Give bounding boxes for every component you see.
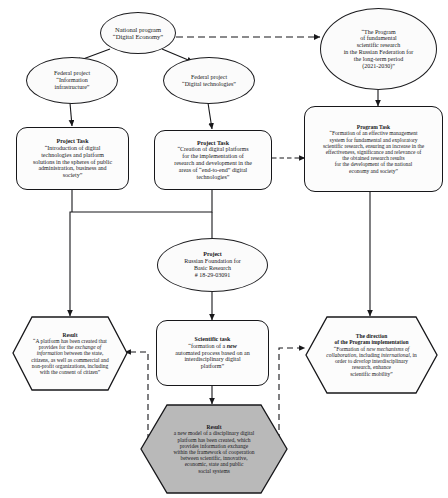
node-direction-of-program-implementation[interactable]: The direction of the Program implementat… bbox=[305, 316, 438, 394]
national-program-line1: National program bbox=[105, 26, 171, 33]
program-task-right-line7: economy and society” bbox=[309, 168, 438, 174]
project-rfbr-line1: Project bbox=[162, 251, 263, 258]
result-left-line3b: between the state, bbox=[63, 350, 104, 356]
node-federal-project-digital-technologies[interactable]: Federal project “Digital technologies” bbox=[163, 57, 255, 104]
project-rfbr-line3: Basic Research bbox=[162, 265, 263, 272]
project-task-center-line3: research and development in the bbox=[159, 160, 267, 167]
scientific-task-heading: Scientific task bbox=[161, 336, 264, 343]
node-project-task-introduction-of-digital-technologies[interactable]: Project Task “Introduction of digital te… bbox=[16, 127, 129, 190]
result-bottom-line7: social systems bbox=[150, 468, 278, 474]
node-result-new-model-disciplinary-digital-platform[interactable]: Result a new model of a disciplinary dig… bbox=[140, 404, 288, 494]
direction-right-line2a: collaboration bbox=[326, 352, 356, 358]
program-fundamental-line3: scientific research bbox=[325, 42, 432, 49]
result-left-line3a: information bbox=[37, 350, 63, 356]
national-program-line2: “Digital Economy” bbox=[105, 33, 171, 40]
scientific-task-line3: interdisciplinary digital bbox=[161, 356, 264, 363]
project-task-left-line2: technologies and platform bbox=[21, 152, 124, 159]
node-scientific-task-new-automated-process[interactable]: Scientific task “formation of a new auto… bbox=[156, 320, 269, 386]
direction-right-line3c: interdisciplinary bbox=[371, 358, 408, 364]
direction-right-line2d: , in bbox=[410, 352, 417, 358]
edge-federal-digital-to-project-task-center bbox=[208, 103, 212, 129]
node-program-fundamental[interactable]: “The Program of fundamental scientific r… bbox=[320, 8, 437, 90]
direction-right-line1a: “Formation of bbox=[334, 346, 367, 352]
project-task-left-line4: administration, business and bbox=[21, 165, 124, 172]
project-task-left-line1: “Introduction of digital bbox=[21, 145, 124, 152]
scientific-task-line2: automated process based on an bbox=[161, 350, 264, 357]
federal-info-line1: Federal project bbox=[31, 70, 113, 77]
direction-right-line1b: new mechanisms of bbox=[366, 346, 409, 352]
node-project-task-creation-of-digital-platforms[interactable]: Project Task “Creation of digital platfo… bbox=[154, 130, 272, 190]
result-left-line2b: exchange of bbox=[75, 344, 101, 350]
federal-digital-line2: “Digital technologies” bbox=[168, 81, 250, 88]
project-task-left-line5: society” bbox=[21, 172, 124, 179]
program-fundamental-line5: the long-term period bbox=[325, 56, 432, 63]
federal-info-line2: “Information bbox=[31, 77, 113, 84]
project-rfbr-line4: # 18-29-03091 bbox=[162, 272, 263, 279]
scientific-task-line4: platform” bbox=[161, 363, 264, 370]
scientific-task-line1: “formation of a new bbox=[161, 343, 264, 350]
federal-digital-line1: Federal project bbox=[168, 74, 250, 81]
project-task-left-line3: solutions in the spheres of public bbox=[21, 159, 124, 166]
node-program-task-effective-management-system[interactable]: Program Task “Formation of an effective … bbox=[304, 106, 443, 192]
direction-right-line2c: international bbox=[381, 352, 410, 358]
program-fundamental-line1: “The Program bbox=[325, 29, 432, 36]
project-task-center-heading: Project Task bbox=[159, 140, 267, 147]
project-task-center-line2: for the implementation of bbox=[159, 153, 267, 160]
node-federal-project-information-infrastructure[interactable]: Federal project “Information infrastruct… bbox=[26, 57, 118, 104]
flowchart-canvas: National program “Digital Economy” “The … bbox=[0, 0, 448, 498]
node-result-platform-exchange-of-information[interactable]: Result “A platform has been created that… bbox=[12, 316, 128, 391]
program-fundamental-line4: in the Russian Federation for bbox=[325, 49, 432, 56]
program-fundamental-line2: of fundamental bbox=[325, 35, 432, 42]
federal-info-line3: infrastructure” bbox=[31, 84, 113, 91]
direction-right-line5: scientific mobility” bbox=[315, 371, 428, 377]
project-rfbr-line2: Russian Foundation for bbox=[162, 258, 263, 265]
program-fundamental-line6: (2021-2030)” bbox=[325, 63, 432, 70]
scientific-task-line1a: “formation of a bbox=[188, 343, 226, 349]
scientific-task-line1b: new bbox=[227, 343, 237, 349]
direction-right-line3b: develop bbox=[354, 358, 371, 364]
project-task-center-line4: areas of “end-to-end” digital bbox=[159, 167, 267, 174]
direction-right-line3a: order to bbox=[335, 358, 354, 364]
project-task-center-line1: “Creation of digital platforms bbox=[159, 146, 267, 153]
project-task-left-heading: Project Task bbox=[21, 138, 124, 145]
direction-right-line2b: , including bbox=[356, 352, 381, 358]
result-left-line4: citizens, as well as commercial and bbox=[22, 357, 118, 363]
node-national-program[interactable]: National program “Digital Economy” bbox=[100, 12, 176, 54]
result-left-line6: with the consent of citizen” bbox=[22, 369, 118, 375]
project-task-center-line5: technologies” bbox=[159, 174, 267, 181]
node-project-russian-foundation-basic-research[interactable]: Project Russian Foundation for Basic Res… bbox=[157, 238, 268, 292]
result-left-line2a: provides for the bbox=[39, 344, 75, 350]
edge-federal-info-to-project-task-left bbox=[70, 103, 72, 126]
